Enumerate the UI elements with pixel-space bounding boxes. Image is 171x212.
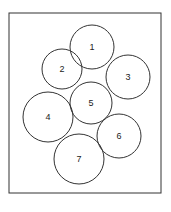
diagram-frame — [9, 13, 161, 193]
circle-label: 1 — [89, 42, 94, 52]
circle-4: 4 — [23, 92, 73, 142]
circle-diagram: 1234567 — [0, 0, 171, 212]
circle-2: 2 — [42, 49, 82, 89]
circle-label: 6 — [116, 131, 121, 141]
circle-1: 1 — [70, 25, 114, 69]
circle-7: 7 — [54, 134, 104, 184]
circle-label: 4 — [45, 112, 50, 122]
circle-label: 3 — [125, 72, 130, 82]
circle-3: 3 — [106, 55, 150, 99]
circle-label: 5 — [88, 98, 93, 108]
circle-6: 6 — [97, 114, 141, 158]
circle-label: 2 — [59, 64, 64, 74]
circle-label: 7 — [76, 154, 81, 164]
circle-5: 5 — [70, 82, 112, 124]
